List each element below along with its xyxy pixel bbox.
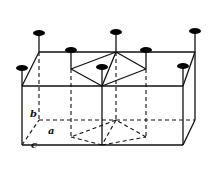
atom-back-center — [110, 29, 122, 35]
label-b: b — [30, 108, 37, 119]
atom-diamond-right — [140, 47, 152, 53]
atom-diamond-left — [65, 47, 77, 53]
atom-front-left — [16, 65, 28, 71]
crystal-lattice-diagram: b a c — [0, 0, 211, 174]
atom-front-right — [177, 63, 189, 69]
atom-back-right — [189, 28, 201, 34]
atom-front-center — [96, 64, 108, 70]
label-c: c — [31, 139, 37, 150]
atom-back-left — [33, 30, 45, 36]
atoms — [16, 28, 201, 71]
label-a: a — [48, 125, 54, 136]
lattice-svg: b a c — [0, 0, 211, 174]
